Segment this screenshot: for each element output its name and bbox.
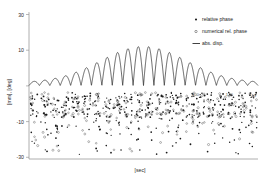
data-point-relative-phase xyxy=(231,99,232,100)
data-point-relative-phase xyxy=(36,111,37,112)
data-point-relative-phase xyxy=(88,129,89,130)
chart-canvas: 30 10 -10 -30 [mm], [deg] [sec] 10012013… xyxy=(0,0,264,178)
data-point-relative-phase xyxy=(50,111,51,112)
data-point-relative-phase xyxy=(170,96,172,98)
data-point-relative-phase xyxy=(106,132,107,133)
data-point-relative-phase xyxy=(57,100,59,102)
data-point-relative-phase xyxy=(169,110,171,112)
data-point-relative-phase xyxy=(98,126,100,128)
data-point-relative-phase xyxy=(105,111,106,112)
data-point-relative-phase xyxy=(67,97,69,99)
data-point-relative-phase xyxy=(199,112,201,114)
data-point-relative-phase xyxy=(118,121,119,122)
data-point-relative-phase xyxy=(191,114,192,115)
data-point-relative-phase xyxy=(115,97,116,98)
data-point-relative-phase xyxy=(131,114,132,115)
data-point-relative-phase xyxy=(71,92,73,94)
data-point-relative-phase xyxy=(104,101,105,102)
data-point-relative-phase xyxy=(249,111,251,113)
data-point-relative-phase xyxy=(110,135,111,136)
data-point-relative-phase xyxy=(55,125,57,127)
data-point-relative-phase xyxy=(71,97,73,99)
data-point-relative-phase xyxy=(238,99,240,101)
data-point-relative-phase xyxy=(118,124,120,126)
data-point-relative-phase xyxy=(94,101,95,102)
legend-label-numerical-rel-phase: numerical rel. phase xyxy=(202,28,247,34)
data-point-relative-phase xyxy=(61,125,62,126)
data-point-relative-phase xyxy=(235,105,236,106)
data-point-relative-phase xyxy=(212,121,213,122)
data-point-relative-phase xyxy=(130,134,131,135)
data-point-relative-phase xyxy=(175,102,177,104)
data-point-relative-phase xyxy=(203,99,204,100)
data-point-relative-phase xyxy=(198,133,199,134)
data-point-relative-phase xyxy=(121,96,122,97)
data-point-relative-phase xyxy=(32,113,33,114)
data-point-relative-phase xyxy=(61,106,63,108)
data-point-relative-phase xyxy=(182,105,183,106)
data-point-relative-phase xyxy=(238,95,240,97)
data-point-relative-phase xyxy=(75,125,76,126)
data-point-relative-phase xyxy=(118,96,119,97)
data-point-relative-phase xyxy=(46,150,48,152)
data-point-relative-phase xyxy=(79,154,80,155)
data-point-relative-phase xyxy=(139,100,141,102)
data-point-relative-phase xyxy=(106,120,108,122)
data-point-relative-phase xyxy=(189,103,190,104)
data-point-relative-phase xyxy=(172,97,173,98)
data-point-relative-phase xyxy=(256,116,258,118)
data-point-relative-phase xyxy=(56,127,58,129)
data-point-relative-phase xyxy=(119,97,120,98)
data-point-relative-phase xyxy=(150,94,152,96)
data-point-relative-phase xyxy=(44,106,46,108)
data-point-relative-phase xyxy=(232,128,234,130)
y-tick-label-10: 10 xyxy=(18,47,24,53)
data-point-relative-phase xyxy=(150,131,152,133)
y-tick-label-neg10: -10 xyxy=(17,119,25,125)
data-point-relative-phase xyxy=(203,107,204,108)
data-point-relative-phase xyxy=(137,121,139,123)
data-point-relative-phase xyxy=(83,111,85,113)
data-point-relative-phase xyxy=(120,149,122,151)
data-point-relative-phase xyxy=(177,97,179,99)
data-point-relative-phase xyxy=(189,114,191,116)
data-point-relative-phase xyxy=(223,116,224,117)
data-point-relative-phase xyxy=(73,116,75,118)
data-point-relative-phase xyxy=(241,94,243,96)
data-point-relative-phase xyxy=(176,100,177,101)
data-point-relative-phase xyxy=(84,95,86,97)
data-point-relative-phase xyxy=(109,108,110,109)
data-point-relative-phase xyxy=(149,98,151,100)
data-point-relative-phase xyxy=(86,95,88,97)
data-point-relative-phase xyxy=(199,122,201,124)
data-point-relative-phase xyxy=(211,92,212,93)
data-point-relative-phase xyxy=(244,102,246,104)
data-point-relative-phase xyxy=(252,146,254,148)
data-point-relative-phase xyxy=(57,108,58,109)
plot-annotation-2: 13 xyxy=(251,93,256,98)
data-point-relative-phase xyxy=(218,101,220,103)
data-point-relative-phase xyxy=(126,100,127,101)
data-point-relative-phase xyxy=(66,96,68,98)
data-point-relative-phase xyxy=(124,93,126,95)
data-point-relative-phase xyxy=(84,101,86,103)
data-point-relative-phase xyxy=(45,149,46,150)
data-point-relative-phase xyxy=(225,98,226,99)
data-point-relative-phase xyxy=(161,95,163,97)
data-point-relative-phase xyxy=(31,132,33,134)
data-point-relative-phase xyxy=(124,111,126,113)
data-point-relative-phase xyxy=(87,113,89,115)
data-point-relative-phase xyxy=(244,92,246,94)
data-point-relative-phase xyxy=(32,95,34,97)
x-axis-title: [sec] xyxy=(135,167,147,173)
data-point-relative-phase xyxy=(119,112,121,114)
data-point-relative-phase xyxy=(141,109,143,111)
data-point-relative-phase xyxy=(147,108,149,110)
data-point-relative-phase xyxy=(139,108,140,109)
data-point-relative-phase xyxy=(36,94,38,96)
legend-label-relative-phase: relative phase xyxy=(202,16,233,22)
data-point-relative-phase xyxy=(74,97,76,99)
data-point-relative-phase xyxy=(219,113,220,114)
data-point-relative-phase xyxy=(116,120,117,121)
data-point-relative-phase xyxy=(43,96,45,98)
